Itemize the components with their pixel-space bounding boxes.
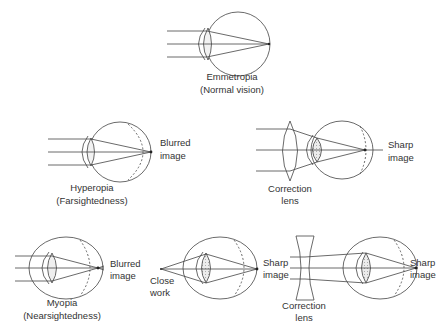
emmetropia-subtitle: (Normal vision) xyxy=(200,84,264,96)
hyperopia-corrected-eye xyxy=(256,121,383,181)
hyperopia-corrected-lens-label-2: lens xyxy=(281,195,298,207)
myopia-image-label-1: Blurred xyxy=(110,258,141,270)
emmetropia-title: Emmetropia xyxy=(206,71,257,83)
myopia-title: Myopia xyxy=(47,297,78,309)
hyperopia-image-label-1: Blurred xyxy=(160,137,191,149)
myopia-corrected-lens-label-1: Correction xyxy=(282,300,326,312)
vision-diagram xyxy=(0,0,440,326)
hyperopia-subtitle: (Farsightedness) xyxy=(56,195,127,207)
hyperopia-eye xyxy=(48,122,152,182)
hyperopia-corrected-image-label-2: image xyxy=(388,152,414,164)
hyperopia-title: Hyperopia xyxy=(70,182,113,194)
myopia-corrected-lens-label-2: lens xyxy=(295,312,312,324)
myopia-corrected-eye xyxy=(290,236,418,300)
myopia-eye xyxy=(15,237,104,299)
emmetropia-eye xyxy=(167,12,270,76)
close-work-label-1: Close xyxy=(150,275,174,287)
hyperopia-image-label-2: image xyxy=(160,150,186,162)
convex-lens-icon xyxy=(283,121,298,181)
close-work-image-label-1: Sharp xyxy=(263,257,288,269)
hyperopia-corrected-lens-label-1: Correction xyxy=(268,183,312,195)
close-work-label-2: work xyxy=(150,287,170,299)
myopia-image-label-2: image xyxy=(110,270,136,282)
myopia-corrected-image-label-1: Sharp xyxy=(410,257,435,269)
myopia-corrected-image-label-2: image xyxy=(410,269,436,281)
hyperopia-corrected-image-label-1: Sharp xyxy=(388,139,413,151)
myopia-close-work-eye xyxy=(160,237,258,299)
close-work-image-label-2: image xyxy=(263,269,289,281)
myopia-subtitle: (Nearsightedness) xyxy=(23,310,101,322)
